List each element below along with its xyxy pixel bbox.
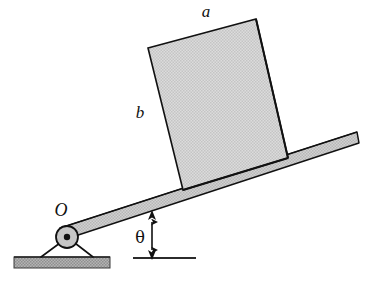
mechanics-diagram: a b O θ xyxy=(0,0,373,282)
pivot-hinge xyxy=(56,226,78,248)
ground xyxy=(14,257,110,268)
label-a: a xyxy=(202,2,211,21)
label-b: b xyxy=(136,103,145,122)
diagram-canvas: a b O θ xyxy=(0,0,373,282)
pivot-center-dot xyxy=(64,234,70,240)
label-theta: θ xyxy=(135,228,145,247)
ground-block xyxy=(14,257,110,268)
label-o: O xyxy=(55,200,68,220)
